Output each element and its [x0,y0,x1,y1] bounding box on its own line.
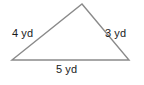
triangle-figure: 4 yd 3 yd 5 yd [0,0,144,85]
side-label-left: 4 yd [12,27,33,40]
side-label-right: 3 yd [105,27,126,40]
side-label-bottom: 5 yd [56,63,77,76]
